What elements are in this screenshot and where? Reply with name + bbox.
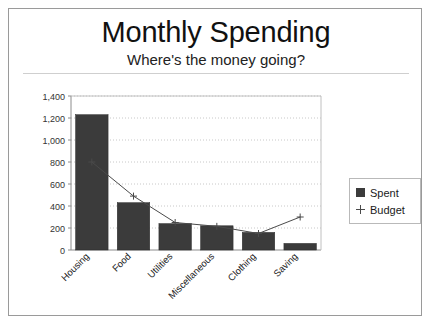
y-tick-label: 1,400 [42, 92, 65, 102]
plot-area: 02004006008001,0001,2001,400HousingFoodU… [9, 9, 423, 317]
y-tick-label: 400 [50, 202, 65, 212]
y-tick-label: 800 [50, 158, 65, 168]
x-tick-label-group: Utilities [145, 250, 175, 280]
y-tick-label: 0 [60, 246, 65, 256]
x-tick-label: Clothing [225, 251, 257, 283]
chart-card: Monthly Spending Where's the money going… [8, 8, 422, 316]
legend-label-spent: Spent [370, 187, 399, 199]
y-tick-label: 200 [50, 224, 65, 234]
chart-legend: Spent Budget [349, 178, 421, 224]
legend-label-budget: Budget [370, 204, 405, 216]
bar-housing [76, 115, 109, 250]
chart-svg: 02004006008001,0001,2001,400HousingFoodU… [9, 9, 423, 317]
plot-background [71, 96, 321, 250]
legend-swatch-square-icon [356, 188, 365, 197]
y-tick-label: 1,000 [42, 136, 65, 146]
y-tick-label: 600 [50, 180, 65, 190]
x-tick-label: Food [110, 251, 133, 274]
x-tick-label: Housing [59, 251, 91, 283]
x-tick-label: Saving [271, 251, 299, 279]
x-tick-label-group: Clothing [225, 251, 257, 283]
bar-saving [284, 243, 317, 250]
x-tick-label-group: Housing [59, 251, 91, 283]
y-tick-label: 1,200 [42, 114, 65, 124]
bar-food [117, 203, 150, 250]
bar-utilities [159, 224, 192, 250]
x-tick-label-group: Food [110, 251, 133, 274]
x-tick-label: Utilities [145, 250, 175, 280]
legend-item-budget[interactable]: Budget [356, 201, 420, 218]
legend-item-spent[interactable]: Spent [356, 184, 420, 201]
x-tick-label-group: Saving [271, 251, 299, 279]
legend-swatch-plus-icon [356, 205, 365, 214]
